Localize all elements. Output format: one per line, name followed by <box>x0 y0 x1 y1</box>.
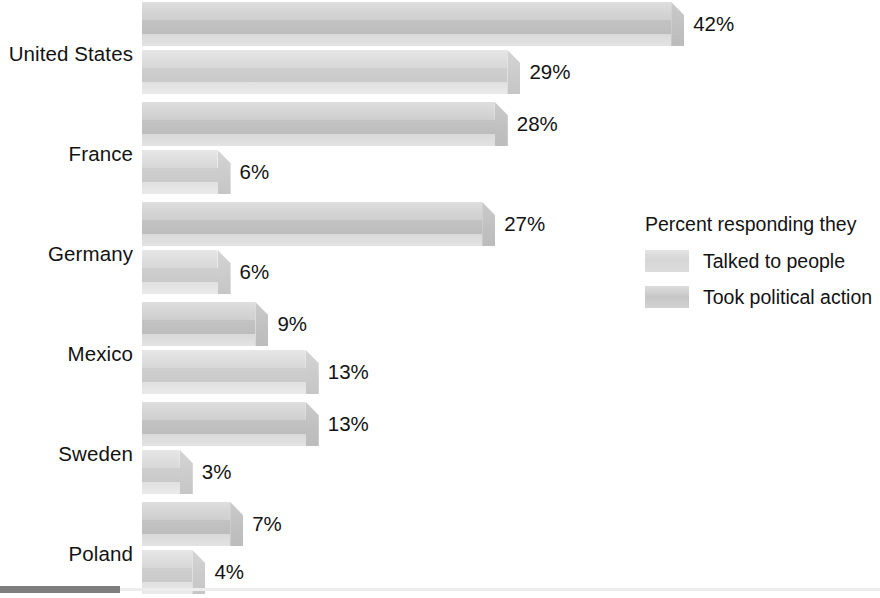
bar-end-cap <box>230 502 243 546</box>
category-label: United States <box>0 42 133 66</box>
category-group: Poland7%4% <box>0 502 880 598</box>
bar-top-face <box>142 50 507 68</box>
bar-front-face <box>142 468 180 482</box>
bar-end-cap <box>218 150 231 194</box>
bar-front-face <box>142 168 218 182</box>
bar-end-cap <box>306 402 319 446</box>
bar-end-cap <box>671 2 684 46</box>
bar-front-face <box>142 268 218 282</box>
bar-front-face <box>142 220 482 234</box>
legend-label-took-political-action: Took political action <box>703 285 872 309</box>
category-label: France <box>0 142 133 166</box>
bar-value-label: 13% <box>328 361 369 383</box>
bar-bottom-face <box>142 382 306 394</box>
category-label: Poland <box>0 542 133 566</box>
category-label: Germany <box>0 242 133 266</box>
bar-value-label: 3% <box>202 461 232 483</box>
bar-end-cap <box>218 250 231 294</box>
legend-title: Percent responding they <box>645 212 880 236</box>
chart-legend: Percent responding they Talked to people… <box>645 212 880 318</box>
bar-bottom-face <box>142 134 495 146</box>
bar-talked-to-people[interactable] <box>142 2 671 46</box>
bar-bottom-face <box>142 82 507 94</box>
bar-talked-to-people[interactable] <box>142 302 255 346</box>
bar-front-face <box>142 520 230 534</box>
bar-value-label: 42% <box>693 13 734 35</box>
bar-front-face <box>142 420 306 434</box>
bar-chart: United States42%29%France28%6%Germany27%… <box>0 0 880 598</box>
bar-took-political-action[interactable] <box>142 450 180 494</box>
category-group: France28%6% <box>0 102 880 202</box>
bar-talked-to-people[interactable] <box>142 502 230 546</box>
bar-top-face <box>142 402 306 420</box>
bar-value-label: 6% <box>240 261 270 283</box>
bar-value-label: 29% <box>529 61 570 83</box>
bar-talked-to-people[interactable] <box>142 402 306 446</box>
bar-value-label: 28% <box>517 113 558 135</box>
bar-top-face <box>142 250 218 268</box>
bar-talked-to-people[interactable] <box>142 102 495 146</box>
bar-top-face <box>142 550 192 568</box>
category-group: United States42%29% <box>0 2 880 102</box>
bar-end-cap <box>507 50 520 94</box>
category-label: Sweden <box>0 442 133 466</box>
bar-top-face <box>142 150 218 168</box>
bar-end-cap <box>482 202 495 246</box>
bar-top-face <box>142 202 482 220</box>
bar-front-face <box>142 320 255 334</box>
bar-bottom-face <box>142 434 306 446</box>
bar-bottom-face <box>142 34 671 46</box>
bar-took-political-action[interactable] <box>142 50 507 94</box>
bar-end-cap <box>180 450 193 494</box>
legend-label-talked-to-people: Talked to people <box>703 249 845 273</box>
legend-item-took-political-action[interactable]: Took political action <box>645 282 880 312</box>
bar-value-label: 4% <box>214 561 244 583</box>
bar-bottom-face <box>142 234 482 246</box>
legend-swatch-icon-took-political-action <box>645 286 689 308</box>
bar-bottom-face <box>142 282 218 294</box>
bar-bottom-face <box>142 182 218 194</box>
bar-took-political-action[interactable] <box>142 350 306 394</box>
bar-top-face <box>142 350 306 368</box>
bar-front-face <box>142 568 192 582</box>
footer-hairline <box>120 588 880 591</box>
bar-end-cap <box>306 350 319 394</box>
bar-top-face <box>142 502 230 520</box>
bar-front-face <box>142 120 495 134</box>
bar-top-face <box>142 2 671 20</box>
category-group: Sweden13%3% <box>0 402 880 502</box>
bar-top-face <box>142 102 495 120</box>
bar-bottom-face <box>142 534 230 546</box>
bar-took-political-action[interactable] <box>142 250 218 294</box>
category-label: Mexico <box>0 342 133 366</box>
bar-bottom-face <box>142 334 255 346</box>
bar-talked-to-people[interactable] <box>142 202 482 246</box>
bar-took-political-action[interactable] <box>142 150 218 194</box>
bar-value-label: 9% <box>277 313 307 335</box>
bar-front-face <box>142 368 306 382</box>
bar-bottom-face <box>142 482 180 494</box>
bar-value-label: 27% <box>504 213 545 235</box>
bar-front-face <box>142 20 671 34</box>
bar-front-face <box>142 68 507 82</box>
bar-value-label: 6% <box>240 161 270 183</box>
legend-item-talked-to-people[interactable]: Talked to people <box>645 246 880 276</box>
footer-rule <box>0 586 120 593</box>
bar-end-cap <box>255 302 268 346</box>
bar-end-cap <box>495 102 508 146</box>
bar-top-face <box>142 450 180 468</box>
bar-value-label: 7% <box>252 513 282 535</box>
bar-value-label: 13% <box>328 413 369 435</box>
legend-swatch-icon-talked-to-people <box>645 250 689 272</box>
bar-top-face <box>142 302 255 320</box>
